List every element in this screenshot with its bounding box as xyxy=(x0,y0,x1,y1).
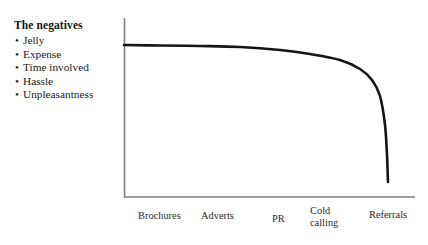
x-tick-label-referrals: Referrals xyxy=(369,209,407,221)
plot-area xyxy=(0,0,428,245)
x-tick-label-pr: PR xyxy=(272,213,285,225)
chart-page: The negatives • Jelly • Expense • Time i… xyxy=(0,0,428,245)
x-tick-label-adverts: Adverts xyxy=(201,210,234,222)
effectiveness-curve xyxy=(124,45,388,182)
x-tick-label-brochures: Brochures xyxy=(138,210,181,222)
x-tick-label-cold-calling: Cold calling xyxy=(310,205,338,228)
